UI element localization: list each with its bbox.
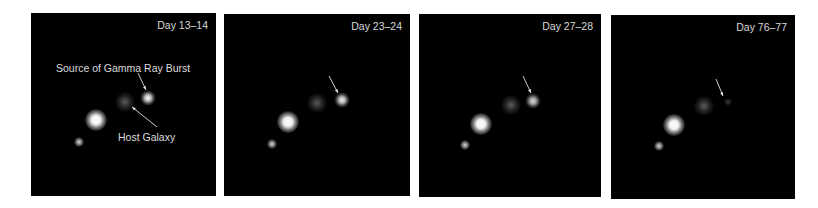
- image-panel-3: Day 27–28: [419, 14, 601, 197]
- image-panel-1: Day 13–14Source of Gamma Ray BurstHost G…: [31, 13, 216, 196]
- arrow-icon: [224, 14, 410, 196]
- arrow-icon: [611, 15, 795, 199]
- image-panel-4: Day 76–77: [611, 15, 795, 199]
- arrow-icon: [419, 14, 601, 197]
- host-galaxy-label: Host Galaxy: [118, 131, 175, 143]
- grb-source-label: Source of Gamma Ray Burst: [56, 62, 190, 74]
- arrow-icon: [31, 13, 216, 196]
- image-panel-2: Day 23–24: [224, 14, 410, 196]
